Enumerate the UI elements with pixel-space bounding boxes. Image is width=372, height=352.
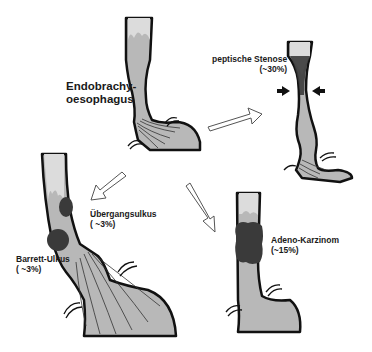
arrow-to-ulkus-icon bbox=[91, 172, 126, 200]
label-uebergangsulkus: Übergangsulkus ( ~3%) bbox=[90, 210, 157, 230]
label-barrett-line2: ( ~3%) bbox=[16, 265, 70, 275]
label-endobrachyoesophagus: Endobrachy- oesophagus bbox=[66, 80, 136, 106]
esophagus-karzinom-illustration bbox=[226, 193, 300, 332]
diagram-canvas bbox=[0, 0, 372, 352]
arrow-to-karzinom-icon bbox=[186, 183, 215, 232]
esophagus-center-illustration bbox=[126, 18, 200, 150]
label-karzinom-line2: (~15%) bbox=[271, 246, 339, 256]
label-center-line2: oesophagus bbox=[66, 93, 136, 106]
label-peptische-stenose: peptische Stenose (~30%) bbox=[212, 55, 287, 75]
esophagus-ulkus-illustration bbox=[42, 154, 176, 336]
label-center-line1: Endobrachy- bbox=[66, 80, 136, 93]
label-stenose-line2: (~30%) bbox=[212, 65, 287, 75]
compression-arrow-right-icon bbox=[312, 86, 325, 96]
arrow-to-stenose-icon bbox=[208, 108, 262, 131]
compression-arrow-left-icon bbox=[277, 86, 290, 96]
label-ulkus-line2: ( ~3%) bbox=[90, 220, 157, 230]
label-adeno-karzinom: Adeno-Karzinom (~15%) bbox=[271, 236, 339, 256]
esophagus-stenose-illustration bbox=[277, 42, 352, 182]
label-barrett-ulkus: Barrett-Ulkus ( ~3%) bbox=[16, 255, 70, 275]
